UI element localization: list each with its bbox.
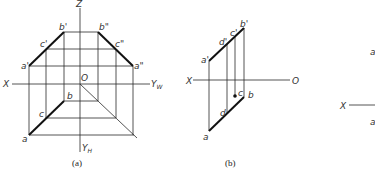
label-b-dprime: b" <box>99 22 109 32</box>
label-a-prime-b: a' <box>201 55 209 65</box>
label-z: Z <box>75 0 83 9</box>
label-c-prime-b: c' <box>230 28 237 38</box>
label-b-prime-b: b' <box>240 19 248 29</box>
label-origin: O <box>81 73 88 83</box>
label-d-prime-b: d' <box>219 37 227 47</box>
label-x-b: X <box>185 76 193 86</box>
label-c-prime: c' <box>40 39 47 49</box>
label-origin-b: O <box>292 76 299 86</box>
label-b: b <box>67 91 73 101</box>
label-x-c: X <box>339 101 347 111</box>
label-yh: YH <box>82 143 93 154</box>
label-yw: YW <box>151 79 164 90</box>
projection-diagrams: Z X O YW YH b' c' a' b" c" a" b c a (a) … <box>0 0 375 172</box>
label-c-b: c <box>238 88 243 98</box>
label-a-b: a <box>203 132 209 142</box>
label-a-top-c: a <box>370 47 375 57</box>
top-projection-ab-b <box>209 97 244 131</box>
figure-b: X a' d' c' b' d c b a O (b) <box>185 19 299 168</box>
label-c-dprime: c" <box>115 39 124 49</box>
label-a-dprime: a" <box>134 61 144 71</box>
figure-a: Z X O YW YH b' c' a' b" c" a" b c a (a) <box>2 0 164 168</box>
point-c <box>233 94 237 98</box>
caption-a: (a) <box>72 158 82 168</box>
caption-b: (b) <box>225 158 236 168</box>
label-c: c <box>39 109 44 119</box>
label-b-prime: b' <box>59 22 67 32</box>
label-d-b: d <box>220 108 226 118</box>
label-x: X <box>2 79 10 89</box>
mitre-line <box>80 84 137 138</box>
label-b-b: b <box>248 90 254 100</box>
label-a: a <box>22 134 28 144</box>
label-a-prime: a' <box>21 61 29 71</box>
figure-c-partial: X a a <box>339 47 375 127</box>
label-a-bottom-c: a <box>370 117 375 127</box>
